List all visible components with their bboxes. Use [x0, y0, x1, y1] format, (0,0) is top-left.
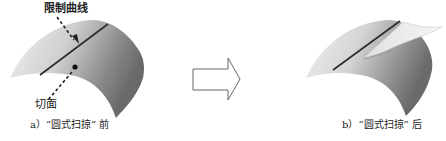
- caption-after: b）“圆式扫掠” 后: [342, 120, 422, 130]
- surface-before: [10, 17, 144, 118]
- limit-curve-label: 限制曲线: [44, 3, 88, 14]
- caption-before: a）“圆式扫掠” 前: [30, 120, 109, 130]
- right-arrow-icon: [193, 58, 240, 100]
- tangent-face-label: 切面: [35, 99, 57, 110]
- tangent-face-leader: [48, 72, 72, 100]
- surface-after: [306, 20, 442, 116]
- tangent-point-dot: [72, 64, 77, 69]
